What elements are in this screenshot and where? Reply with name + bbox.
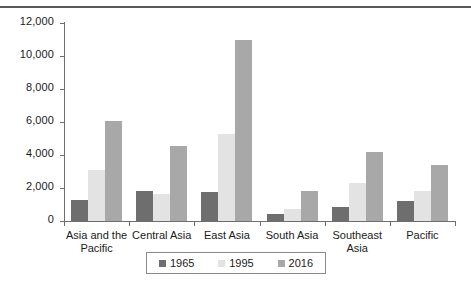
bar-group-bars (194, 23, 259, 221)
legend-label: 1995 (229, 257, 253, 269)
plot-area (64, 23, 455, 221)
x-axis-tick-mark (64, 221, 65, 226)
bar-group (390, 23, 455, 221)
x-axis-label: East Asia (194, 229, 259, 242)
bar-2016-south-asia (301, 191, 318, 221)
bar-1965-pacific (397, 201, 414, 221)
x-axis-label: Southeast Asia (325, 229, 390, 254)
bar-chart-figure: 12,00010,0008,0006,0004,0002,0000 Asia a… (0, 0, 471, 285)
legend-label: 1965 (170, 257, 194, 269)
bar-1995-asia-and-the-pacific (88, 170, 105, 221)
legend-swatch-icon (278, 260, 285, 267)
y-axis-tick-label: 0 (48, 213, 54, 225)
bar-group (64, 23, 129, 221)
bar-1995-south-asia (284, 209, 301, 221)
x-axis-label: Pacific (390, 229, 455, 242)
bar-1965-southeast-asia (332, 207, 349, 221)
x-axis-label: South Asia (260, 229, 325, 242)
bar-2016-southeast-asia (366, 152, 383, 221)
legend-label: 2016 (289, 257, 313, 269)
y-axis-tick-label: 8,000 (26, 81, 54, 93)
bar-2016-east-asia (235, 40, 252, 222)
x-axis-tick-mark (194, 221, 195, 226)
bar-group-bars (390, 23, 455, 221)
x-axis-tick-mark (260, 221, 261, 226)
bar-group-bars (129, 23, 194, 221)
top-rule-divider (0, 6, 471, 8)
bar-2016-asia-and-the-pacific (105, 121, 122, 221)
x-axis-tick-mark (455, 221, 456, 226)
bar-group (260, 23, 325, 221)
legend-item-1965[interactable]: 1965 (159, 257, 194, 269)
chart-legend: 196519952016 (146, 252, 326, 274)
bar-1965-south-asia (267, 214, 284, 221)
legend-item-2016[interactable]: 2016 (278, 257, 313, 269)
bar-group (194, 23, 259, 221)
bar-2016-pacific (431, 165, 448, 221)
bar-group-bars (64, 23, 129, 221)
x-axis-tick-mark (390, 221, 391, 226)
bar-group (129, 23, 194, 221)
bar-1965-asia-and-the-pacific (71, 200, 88, 221)
y-axis-tick-label: 2,000 (26, 180, 54, 192)
bar-1965-central-asia (136, 191, 153, 221)
bar-group (325, 23, 390, 221)
y-axis-tick-label: 10,000 (20, 48, 54, 60)
bar-1995-east-asia (218, 134, 235, 221)
y-axis-tick-label: 4,000 (26, 147, 54, 159)
bar-1995-pacific (414, 191, 431, 221)
bar-1995-southeast-asia (349, 183, 366, 221)
x-axis-tick-mark (325, 221, 326, 226)
y-axis-tick-label: 6,000 (26, 114, 54, 126)
legend-item-1995[interactable]: 1995 (218, 257, 253, 269)
bar-group-bars (260, 23, 325, 221)
bar-group-bars (325, 23, 390, 221)
x-axis-label: Central Asia (129, 229, 194, 242)
x-axis-label: Asia and the Pacific (64, 229, 129, 254)
legend-swatch-icon (218, 260, 225, 267)
x-axis-tick-mark (129, 221, 130, 226)
bar-1995-central-asia (153, 194, 170, 221)
legend-swatch-icon (159, 260, 166, 267)
bar-1965-east-asia (201, 192, 218, 221)
bar-2016-central-asia (170, 146, 187, 221)
y-axis-tick-label: 12,000 (20, 15, 54, 27)
